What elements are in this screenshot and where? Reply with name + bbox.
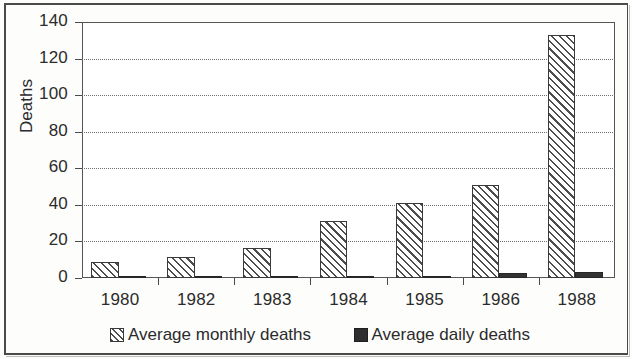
x-axis-tick-label: 1983 [232,290,312,310]
y-axis-tick-mark [75,132,82,133]
x-axis-tick-mark [539,278,540,285]
legend-item-monthly: Average monthly deaths [110,325,311,345]
y-axis-tick-mark [75,278,82,279]
legend-label-daily: Average daily deaths [372,325,530,345]
chart-figure: Deaths 020406080100120140 19801982198319… [0,0,632,359]
y-axis-tick-label: 80 [4,121,68,141]
x-axis-tick-mark [310,278,311,285]
x-axis-tick-mark [234,278,235,285]
x-axis-tick-mark [463,278,464,285]
x-axis: 1980198219831984198519861988 [82,278,615,318]
y-axis-tick-mark [75,168,82,169]
legend-swatch-solid-icon [354,328,368,342]
y-axis-tick-label: 120 [4,48,68,68]
x-axis-tick-label: 1985 [385,290,465,310]
x-axis-tick-mark [158,278,159,285]
y-axis-tick-mark [75,205,82,206]
bar-average-monthly-deaths [548,35,575,278]
y-axis-tick-label: 40 [4,194,68,214]
x-axis-tick-mark [387,278,388,285]
x-axis-tick-label: 1988 [537,290,617,310]
y-axis-tick-label: 140 [4,11,68,31]
y-axis-tick-label: 60 [4,157,68,177]
y-axis-tick-label: 0 [4,267,68,287]
legend-swatch-hatch-icon [110,328,124,342]
bar-average-monthly-deaths [243,248,270,278]
x-axis-tick-label: 1984 [309,290,389,310]
bar-average-monthly-deaths [91,262,118,278]
bar-average-monthly-deaths [167,257,194,278]
y-axis-tick-mark [75,22,82,23]
x-axis-tick-label: 1986 [461,290,541,310]
legend-label-monthly: Average monthly deaths [128,325,311,345]
legend-item-daily: Average daily deaths [354,325,530,345]
chart-legend: Average monthly deaths Average daily dea… [110,325,530,345]
x-axis-tick-label: 1982 [156,290,236,310]
bar-average-monthly-deaths [472,185,499,278]
y-axis-tick-label: 20 [4,230,68,250]
y-axis-tick-mark [75,241,82,242]
y-axis-tick-mark [75,59,82,60]
bars-container [82,22,615,278]
y-axis-tick-label: 100 [4,84,68,104]
x-axis-tick-label: 1980 [80,290,160,310]
y-axis-tick-mark [75,95,82,96]
bar-average-monthly-deaths [320,221,347,278]
bar-average-monthly-deaths [396,203,423,278]
